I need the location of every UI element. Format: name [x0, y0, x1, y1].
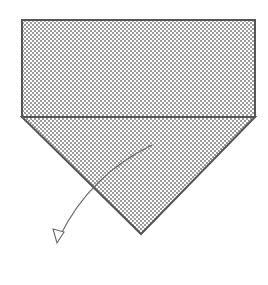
triangle-flap: [22, 117, 255, 234]
arrowhead-icon: [53, 229, 64, 243]
top-rectangle: [22, 20, 255, 117]
origami-diagram: [0, 0, 268, 285]
